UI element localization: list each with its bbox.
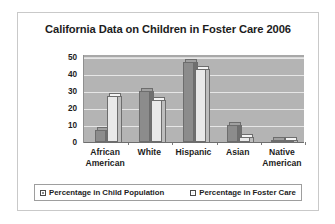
legend-label: Percentage in Child Population <box>49 188 164 197</box>
bar-front-face <box>95 130 106 142</box>
plot-wrapper: 01020304050 <box>56 55 304 155</box>
legend-label: Percentage in Foster Care <box>199 188 296 197</box>
x-axis-category-label: Asian <box>216 147 260 158</box>
category-line-1: White <box>127 147 171 158</box>
category-line-2: American <box>260 158 304 169</box>
bar-group <box>84 58 128 142</box>
chart-legend: Percentage in Child Population Percentag… <box>34 184 302 201</box>
bar-front-face <box>151 100 162 143</box>
x-axis-category-label: White <box>127 147 171 158</box>
bars-layer <box>84 58 304 142</box>
bar-group <box>261 58 305 142</box>
bar-group <box>128 58 172 142</box>
category-line-1: African <box>83 147 127 158</box>
y-axis: 01020304050 <box>56 55 80 143</box>
bar <box>183 59 194 142</box>
category-line-2: American <box>83 158 127 169</box>
bar-side-face <box>118 96 122 143</box>
bar-side-face <box>162 100 166 144</box>
y-axis-tick-label: 10 <box>68 122 77 130</box>
bar-front-face <box>107 96 118 142</box>
y-axis-tick-label: 40 <box>68 71 77 79</box>
dark-gray-swatch-icon <box>40 190 46 196</box>
plot-area <box>83 55 304 143</box>
bar-front-face <box>139 91 150 142</box>
x-axis-category-labels: AfricanAmericanWhiteHispanicAsianNativeA… <box>83 147 304 175</box>
bar-front-face <box>183 62 194 142</box>
x-axis-baseline <box>84 142 304 143</box>
category-line-1: Asian <box>216 147 260 158</box>
bar <box>227 122 238 142</box>
legend-item-child-population: Percentage in Child Population <box>40 188 164 197</box>
bar-group <box>172 58 216 142</box>
chart-card: California Data on Children in Foster Ca… <box>17 12 319 211</box>
category-line-1: Native <box>260 147 304 158</box>
legend-item-foster-care: Percentage in Foster Care <box>190 188 296 197</box>
y-axis-tick-label: 50 <box>68 54 77 62</box>
y-axis-tick-label: 0 <box>72 139 77 147</box>
y-axis-tick-label: 30 <box>68 88 77 96</box>
bar <box>151 97 162 143</box>
bar <box>195 66 206 142</box>
bar <box>239 134 250 142</box>
bar <box>95 127 106 142</box>
x-axis-category-label: NativeAmerican <box>260 147 304 169</box>
y-axis-tick-label: 20 <box>68 105 77 113</box>
bar <box>139 88 150 142</box>
x-axis-category-label: Hispanic <box>171 147 215 158</box>
bar-group <box>217 58 261 142</box>
bar-side-face <box>206 69 210 143</box>
chart-title: California Data on Children in Foster Ca… <box>18 23 318 35</box>
x-axis-category-label: AfricanAmerican <box>83 147 127 169</box>
bar-front-face <box>195 69 206 142</box>
category-line-1: Hispanic <box>171 147 215 158</box>
light-gray-swatch-icon <box>190 190 196 196</box>
bar <box>107 93 118 142</box>
bar-front-face <box>227 125 238 142</box>
x-axis-tick <box>305 142 306 145</box>
